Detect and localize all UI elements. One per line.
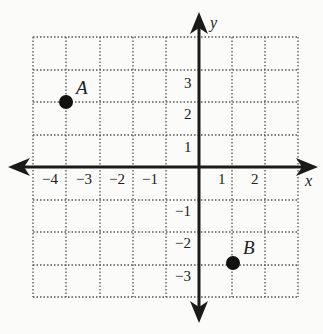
- y-tick-label: 1: [184, 139, 192, 155]
- x-tick-label: 2: [251, 171, 259, 187]
- x-tick-label: −2: [109, 171, 125, 187]
- y-axis-label: y: [208, 14, 218, 32]
- coordinate-plane: y x −4 −3 −2 −1 1 2 3 2 1 −1 −2 −3 A B: [0, 0, 323, 334]
- y-tick-label: −2: [175, 235, 191, 251]
- y-tick-label: 3: [184, 75, 192, 91]
- x-tick-label: −3: [76, 171, 92, 187]
- point-a-label: A: [74, 77, 88, 98]
- y-tick-label: −3: [175, 268, 191, 284]
- x-tick-label: 1: [218, 171, 226, 187]
- y-tick-label: 2: [184, 106, 192, 122]
- point-b-label: B: [243, 237, 255, 258]
- x-axis-label: x: [304, 172, 312, 189]
- point-a: [59, 95, 73, 109]
- x-tick-label: −1: [142, 171, 158, 187]
- point-b: [226, 256, 240, 270]
- x-tick-label: −4: [42, 171, 58, 187]
- y-tick-label: −1: [175, 203, 191, 219]
